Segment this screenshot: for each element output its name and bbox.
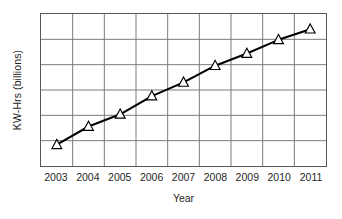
data-point-marker [115, 109, 125, 118]
horizontal-gridlines [41, 39, 326, 140]
x-axis-tick-2004: 2004 [72, 169, 104, 185]
x-axis-tick-2008: 2008 [199, 169, 231, 185]
x-axis-tick-2006: 2006 [136, 169, 168, 185]
y-axis-label-text: KW-Hrs (billions) [11, 50, 23, 130]
x-axis-tick-2007: 2007 [168, 169, 200, 185]
x-axis-tick-2009: 2009 [231, 169, 263, 185]
y-axis-label: KW-Hrs (billions) [0, 13, 34, 167]
plot-area [40, 13, 327, 167]
x-axis-tick-2010: 2010 [263, 169, 295, 185]
chart-container: KW-Hrs (billions) 2003200420052006200720… [0, 0, 342, 219]
x-axis-tick-labels: 200320042005200620072008200920102011 [40, 169, 327, 185]
data-point-marker [305, 24, 315, 33]
x-axis-tick-2005: 2005 [104, 169, 136, 185]
data-line [57, 29, 310, 145]
plot-svg [41, 14, 326, 166]
x-axis-tick-2011: 2011 [295, 169, 327, 185]
x-axis-tick-2003: 2003 [40, 169, 72, 185]
data-markers [52, 24, 315, 149]
x-axis-label: Year [40, 192, 327, 204]
